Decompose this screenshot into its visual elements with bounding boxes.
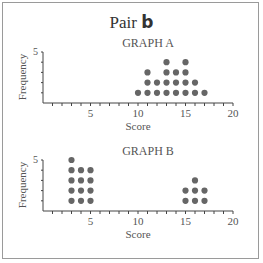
data-dot: [68, 177, 74, 183]
y-axis-label: Frequency: [16, 161, 28, 208]
data-dot: [201, 188, 207, 194]
data-dot: [192, 198, 198, 204]
x-tick-label: 15: [180, 215, 192, 227]
y-tick-label: 5: [33, 154, 38, 165]
x-tick-label: 10: [133, 215, 145, 227]
data-dot: [87, 198, 93, 204]
x-tick-label: 20: [228, 215, 240, 227]
data-dot: [68, 198, 74, 204]
data-dot: [78, 198, 84, 204]
data-dot: [68, 167, 74, 173]
data-dot: [68, 188, 74, 194]
data-dot: [87, 177, 93, 183]
data-dot: [182, 188, 188, 194]
data-dot: [78, 177, 84, 183]
data-dot: [78, 188, 84, 194]
data-dot: [192, 177, 198, 183]
data-dot: [182, 198, 188, 204]
x-axis-label: Score: [125, 228, 150, 240]
graph-b: GRAPH B5Frequency5101520Score: [0, 0, 263, 263]
data-dot: [78, 167, 84, 173]
data-dot: [87, 167, 93, 173]
graph-title: GRAPH B: [122, 144, 174, 158]
data-dot: [201, 198, 207, 204]
x-tick-label: 5: [88, 215, 94, 227]
data-dot: [87, 188, 93, 194]
data-dot: [68, 157, 74, 163]
data-dot: [192, 188, 198, 194]
